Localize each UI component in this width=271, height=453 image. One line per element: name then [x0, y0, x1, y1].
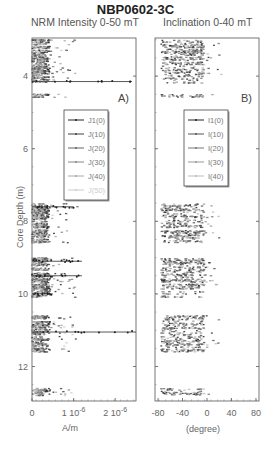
x-tick-label: -80 [152, 408, 165, 418]
legend-entry: I(40) [208, 172, 224, 181]
legend-entry: I(20) [208, 144, 224, 153]
x-tick-label: 80 [251, 408, 261, 418]
panel-b-legend: I1(0)I(10)I(20)I(30)I(40) [184, 110, 230, 188]
legend-entry: J(40) [88, 172, 106, 181]
panel-b-plot: -80-4004080B)I1(0)I(10)I(20)I(30)I(40) [152, 38, 261, 418]
legend-entry: J(30) [88, 158, 106, 167]
legend-entry: J(10) [88, 130, 106, 139]
x-tick-label: 2 10-6 [103, 406, 127, 418]
y-tick-label: 6 [23, 144, 28, 154]
legend-entry: I(30) [208, 158, 224, 167]
y-tick-label: 12 [18, 362, 28, 372]
panel-a-label: A) [118, 92, 129, 104]
y-tick-label: 4 [23, 71, 28, 81]
legend-entry: J(50) [88, 186, 106, 195]
y-tick-label: 10 [18, 289, 28, 299]
x-tick-label: 1 10-6 [62, 406, 86, 418]
legend-entry: J(20) [88, 144, 106, 153]
chart-canvas: 468101201 10-62 10-6A)J1(0)J(10)J(20)J(3… [0, 0, 271, 453]
x-tick-label: -40 [176, 408, 189, 418]
panel-a-legend: J1(0)J(10)J(20)J(30)J(40)J(50) [64, 110, 110, 202]
panel-b-label: B) [241, 92, 252, 104]
x-tick-label: 0 [29, 408, 34, 418]
x-tick-label: 40 [226, 408, 236, 418]
y-tick-label: 8 [23, 216, 28, 226]
legend-entry: I1(0) [208, 116, 224, 125]
x-tick-label: 0 [204, 408, 209, 418]
legend-entry: J1(0) [88, 116, 106, 125]
legend-entry: I(10) [208, 130, 224, 139]
panel-a-plot: 468101201 10-62 10-6A)J1(0)J(10)J(20)J(3… [18, 38, 136, 418]
